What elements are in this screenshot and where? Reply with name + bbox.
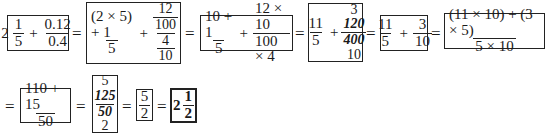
fraction: 0.12 0.4 xyxy=(43,17,73,50)
plus-sign: + xyxy=(140,25,148,42)
whole-number: 2 xyxy=(1,25,9,42)
step-3-box: 10 + 1 5 + 12 × 10 100 × 4 xyxy=(200,15,293,51)
equals-sign: = xyxy=(185,25,195,42)
fraction: 12 × 10 100 × 4 xyxy=(253,1,290,65)
equals-sign: = xyxy=(366,25,376,42)
equals-sign: = xyxy=(76,98,86,115)
fraction: 120 400 xyxy=(341,17,366,47)
final-answer-box: 2 1 2 xyxy=(170,88,197,123)
step-6-box: (11 × 10) + (3 × 5) 5 × 10 xyxy=(444,13,545,49)
fraction: 1 5 xyxy=(13,17,25,50)
fraction: 1 2 xyxy=(183,89,195,122)
plus-sign: + xyxy=(239,25,247,42)
step-9-box: 5 2 xyxy=(136,89,153,121)
fraction: 10 + 1 5 xyxy=(203,9,234,57)
equals-sign: = xyxy=(431,25,441,42)
step-7-box: 110 + 15 50 xyxy=(20,88,71,123)
equals-sign: = xyxy=(72,25,82,42)
fraction: (11 × 10) + (3 × 5) 5 × 10 xyxy=(447,7,542,55)
fraction: 11 5 xyxy=(376,17,394,50)
fraction: 11 5 xyxy=(307,16,325,49)
plus-sign: + xyxy=(29,25,37,42)
step-2-box: (2 × 5) + 1 5 + 12 100 4 10 xyxy=(86,2,181,64)
fraction: 110 + 15 50 xyxy=(23,81,68,129)
plus-sign: + xyxy=(400,25,408,42)
equals-sign: = xyxy=(122,98,132,115)
cancelled-fraction: 5 125 50 2 xyxy=(93,74,118,134)
fraction: (2 × 5) + 1 5 xyxy=(89,9,135,57)
whole-number: 2 xyxy=(173,97,181,114)
step-8-box: 5 125 50 2 xyxy=(92,75,118,133)
fraction: 5 2 xyxy=(139,89,151,122)
step-5-box: 11 5 + 3 10 xyxy=(380,15,428,51)
fraction: 3 10 xyxy=(413,17,432,50)
cancelled-fraction: 3 120 400 10 xyxy=(341,3,366,63)
plus-sign: + xyxy=(330,24,338,41)
equals-sign: = xyxy=(5,98,15,115)
step-1-box: 2 1 5 + 0.12 0.4 xyxy=(7,15,69,51)
fraction: 4 10 xyxy=(157,33,175,64)
step-4-box: 11 5 + 3 120 400 10 xyxy=(308,3,363,62)
fraction: 125 50 xyxy=(93,89,118,119)
fraction: 12 100 xyxy=(153,2,178,32)
complex-fraction: 12 100 4 10 xyxy=(151,2,180,64)
equals-sign: = xyxy=(295,25,305,42)
equals-sign: = xyxy=(157,98,167,115)
